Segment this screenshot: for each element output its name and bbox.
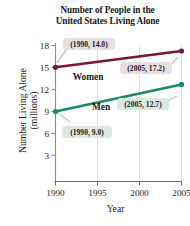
x-axis-ticks xyxy=(56,182,182,186)
y-tick-label-3: 3 xyxy=(44,151,49,161)
annotation-men-start: (1990, 9.0) xyxy=(62,126,112,138)
annotation-women-end-text: (2005, 17.2) xyxy=(127,64,165,73)
x-tick-label-2005: 2005 xyxy=(172,188,190,198)
series-label-women: Women xyxy=(73,72,105,82)
y-tick-label-9: 9 xyxy=(44,107,49,117)
x-tick-label-2000: 2000 xyxy=(130,188,149,198)
chart-container: Number of People in the United States Li… xyxy=(0,0,190,226)
x-tick-label-1995: 1995 xyxy=(88,188,107,198)
y-tick-label-15: 15 xyxy=(40,63,50,73)
plot-area: 18 15 12 9 6 3 1990 1995 2000 2005 xyxy=(0,0,190,226)
y-tick-label-6: 6 xyxy=(44,129,49,139)
annotation-men-end-text: (2005, 12.7) xyxy=(124,100,162,109)
y-tick-label-18: 18 xyxy=(40,41,50,51)
y-axis-ticks xyxy=(52,46,56,156)
x-tick-label-1990: 1990 xyxy=(46,188,65,198)
annotation-men-start-text: (1990, 9.0) xyxy=(70,128,104,137)
y-tick-label-12: 12 xyxy=(40,85,50,95)
annotation-women-start-text: (1990, 14.0) xyxy=(70,40,108,49)
annotation-men-end: (2005, 12.7) xyxy=(117,98,169,110)
annotation-women-end: (2005, 17.2) xyxy=(120,62,172,74)
series-label-men: Men xyxy=(92,102,111,112)
annotation-women-start: (1990, 14.0) xyxy=(63,38,115,50)
